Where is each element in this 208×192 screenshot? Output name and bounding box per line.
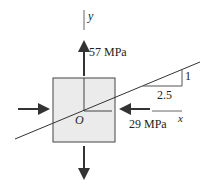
slope-rise-label: 1 [185,69,191,83]
slope-run-label: 2.5 [157,88,172,102]
y-axis-label: y [87,9,94,23]
x-axis-label: x [177,112,183,124]
horizontal-stress-label: 29 MPa [129,117,167,131]
stress-element-diagram: y 57 MPa 1 2.5 O 29 MPa x [0,0,208,192]
origin-label: O [75,113,84,127]
diagram-svg: y 57 MPa 1 2.5 O 29 MPa x [0,0,208,192]
vertical-stress-label: 57 MPa [89,45,127,59]
